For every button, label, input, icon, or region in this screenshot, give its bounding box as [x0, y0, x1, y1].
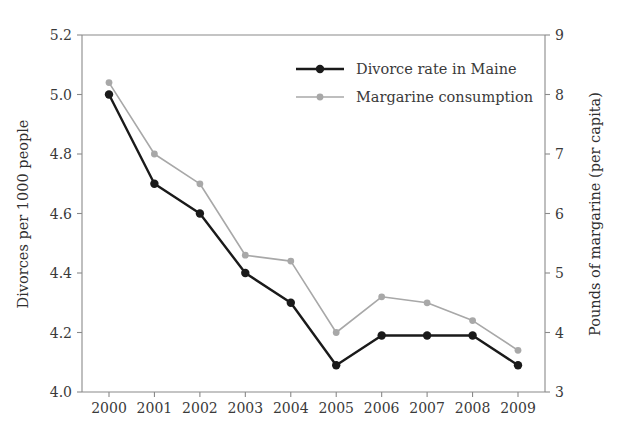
- y-tick-label-left: 4.4: [50, 265, 72, 281]
- data-point: [287, 258, 294, 265]
- chart-legend: Divorce rate in MaineMargarine consumpti…: [296, 61, 533, 105]
- legend-label: Margarine consumption: [356, 89, 533, 105]
- y-axis-left-title: Divorces per 1000 people: [15, 120, 31, 309]
- y-tick-label-right: 9: [555, 27, 564, 43]
- data-point: [423, 331, 431, 339]
- legend-marker: [317, 94, 324, 101]
- data-point: [287, 299, 295, 307]
- data-point: [468, 331, 476, 339]
- data-point: [150, 180, 158, 188]
- y-axis-left: 4.04.24.44.64.85.05.2: [50, 27, 82, 400]
- x-tick-label: 2005: [318, 400, 354, 416]
- x-tick-label: 2000: [91, 400, 127, 416]
- y-tick-label-right: 3: [555, 384, 564, 400]
- y-tick-label-right: 5: [555, 265, 564, 281]
- y-axis-right: 3456789: [545, 27, 564, 400]
- series-line: [109, 83, 518, 351]
- chart-container: 4.04.24.44.64.85.05.2 3456789 2000200120…: [0, 0, 620, 442]
- line-chart: 4.04.24.44.64.85.05.2 3456789 2000200120…: [0, 0, 620, 442]
- data-point: [241, 269, 249, 277]
- series-2: [106, 79, 522, 354]
- data-point: [197, 180, 204, 187]
- x-tick-label: 2009: [500, 400, 536, 416]
- data-point: [424, 299, 431, 306]
- x-tick-label: 2007: [409, 400, 445, 416]
- y-tick-label-left: 4.0: [50, 384, 72, 400]
- data-point: [333, 329, 340, 336]
- data-point: [515, 347, 522, 354]
- legend-marker: [316, 65, 324, 73]
- legend-item-1: Divorce rate in Maine: [296, 61, 517, 77]
- series-layer: [105, 79, 522, 369]
- x-tick-label: 2003: [228, 400, 264, 416]
- data-point: [196, 209, 204, 217]
- x-tick-label: 2001: [137, 400, 173, 416]
- y-tick-label-left: 4.2: [50, 325, 72, 341]
- y-tick-label-right: 8: [555, 87, 564, 103]
- y-tick-label-right: 6: [555, 206, 564, 222]
- y-tick-label-left: 5.2: [50, 27, 72, 43]
- data-point: [106, 79, 113, 86]
- y-tick-label-left: 5.0: [50, 87, 72, 103]
- data-point: [151, 151, 158, 158]
- y-axis-right-title: Pounds of margarine (per capita): [587, 92, 603, 336]
- y-tick-label-left: 4.8: [50, 146, 72, 162]
- legend-item-2: Margarine consumption: [296, 89, 533, 105]
- series-1: [105, 90, 522, 369]
- series-line: [109, 95, 518, 366]
- data-point: [242, 252, 249, 259]
- y-tick-label-right: 4: [555, 325, 564, 341]
- legend-label: Divorce rate in Maine: [356, 61, 517, 77]
- data-point: [378, 331, 386, 339]
- data-point: [378, 293, 385, 300]
- data-point: [105, 90, 113, 98]
- data-point: [514, 361, 522, 369]
- y-tick-label-left: 4.6: [50, 206, 72, 222]
- x-tick-label: 2004: [273, 400, 309, 416]
- y-tick-label-right: 7: [555, 146, 564, 162]
- x-axis: 2000200120022003200420052006200720082009: [91, 392, 536, 416]
- data-point: [332, 361, 340, 369]
- x-tick-label: 2008: [455, 400, 491, 416]
- x-tick-label: 2006: [364, 400, 400, 416]
- x-tick-label: 2002: [182, 400, 218, 416]
- data-point: [469, 317, 476, 324]
